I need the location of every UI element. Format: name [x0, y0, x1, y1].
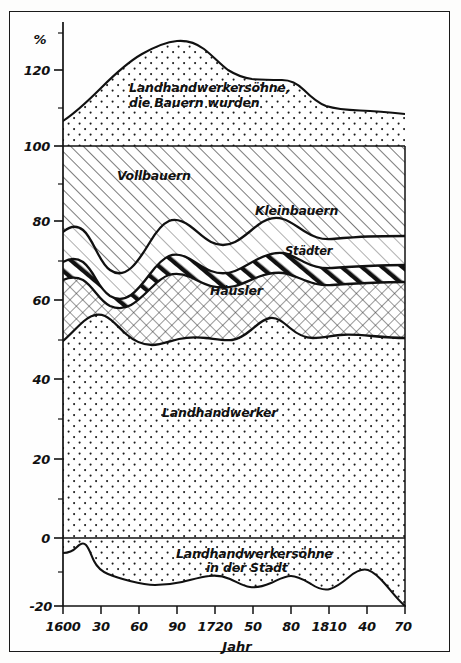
x-tick-label-1720: 1720	[198, 619, 233, 634]
x-tick-label-1630: 30	[92, 619, 110, 634]
y-tick-label-80: 80	[33, 214, 51, 229]
label-landhandwerkersoehne-bauern-line1: Landhandwerkersöhne,	[129, 80, 290, 95]
x-tick-label-1600: 1600	[46, 619, 81, 634]
x-tick-label-1690: 90	[168, 619, 186, 634]
x-axis-ticks	[63, 606, 405, 614]
y-tick-label-60: 60	[33, 293, 51, 308]
label-vollbauern: Vollbauern	[117, 168, 191, 183]
x-tick-label-1750: 50	[244, 619, 262, 634]
x-tick-label-1810: 1810	[312, 619, 347, 634]
y-tick-label-40: 40	[32, 372, 51, 387]
y-axis-unit-label: %	[33, 32, 46, 47]
label-kleinbauern: Kleinbauern	[255, 203, 339, 218]
y-tick-label-120: 120	[24, 63, 50, 78]
x-tick-label-1780: 80	[282, 619, 300, 634]
x-axis-title: Jahr	[219, 639, 253, 654]
y-tick-label-20: 20	[33, 452, 51, 467]
label-landhandwerkersoehne-stadt-line1: Landhandwerkersöhne	[176, 546, 333, 561]
x-tick-label-1840: 40	[357, 619, 376, 634]
label-landhandwerkersoehne-stadt-line2: in der Stadt	[206, 560, 289, 575]
label-staedter: Städter	[285, 244, 334, 258]
chart-svg: % 120 100 80 60 40 20 0 -20 1600 30 60 9…	[0, 0, 461, 663]
label-landhandwerker: Landhandwerker	[162, 405, 278, 420]
band-landhandwerker	[63, 315, 405, 538]
x-tick-label-1660: 60	[130, 619, 148, 634]
figure-container: % 120 100 80 60 40 20 0 -20 1600 30 60 9…	[0, 0, 461, 663]
y-tick-label-100: 100	[24, 139, 50, 154]
y-axis-major-ticks	[54, 70, 63, 606]
x-tick-label-1870: 70	[394, 619, 412, 634]
label-haeusler: Häusler	[210, 283, 264, 298]
y-tick-label-minus20: -20	[29, 599, 52, 614]
label-landhandwerkersoehne-bauern-line2: die Bauern wurden	[129, 95, 260, 110]
y-tick-label-0: 0	[41, 531, 50, 546]
